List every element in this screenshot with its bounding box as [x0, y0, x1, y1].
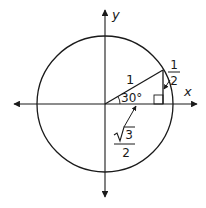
- unit-circle-diagram: y x 1 30° 1 2 3 2: [0, 0, 206, 208]
- opposite-label-denominator: 2: [170, 74, 178, 88]
- adjacent-pointer-arrow: [124, 106, 136, 127]
- adjacent-label-denominator: 2: [122, 146, 130, 160]
- angle-arc: [118, 97, 120, 105]
- hypotenuse-label: 1: [126, 72, 134, 87]
- opposite-label-numerator: 1: [170, 58, 178, 72]
- opposite-pointer-arrow: [164, 80, 170, 89]
- adjacent-label-numerator: 3: [125, 128, 133, 142]
- y-axis-label: y: [111, 7, 120, 22]
- x-axis-label: x: [183, 84, 192, 99]
- right-angle-marker: [154, 95, 163, 104]
- angle-label: 30°: [121, 91, 142, 105]
